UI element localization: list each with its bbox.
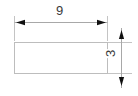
width-dimension-arrow-right [97,20,106,25]
height-dimension-arrow-top [119,30,124,39]
drawing-vector-layer [0,0,138,96]
height-dimension-label: 3 [104,49,117,58]
height-dimension-arrow-bottom [119,77,124,86]
part-outline-rectangle [15,43,108,74]
width-dimension-label: 9 [55,4,64,17]
width-dimension-arrow-left [16,20,25,25]
technical-drawing-canvas: 9 3 [0,0,138,96]
